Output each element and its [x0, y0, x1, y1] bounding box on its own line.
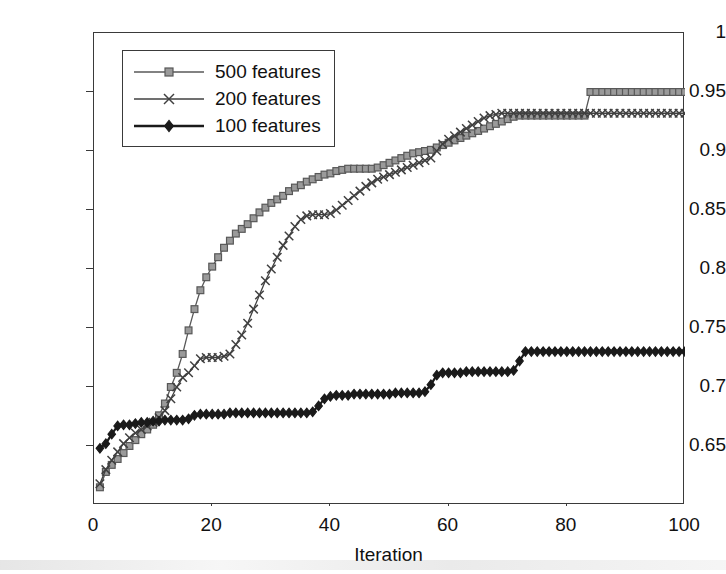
legend-label-2: 100 features [215, 116, 321, 135]
x-tick-label-2: 40 [294, 515, 364, 534]
legend-entry-0[interactable]: 500 features [132, 58, 321, 85]
series-500-features [97, 89, 685, 491]
legend-marker-x-icon [132, 89, 206, 109]
x-tick-label-1: 20 [176, 515, 246, 534]
x-tick-label-4: 80 [531, 515, 601, 534]
legend: 500 features200 features100 features [122, 50, 335, 147]
scan-artifact [0, 560, 726, 570]
legend-label-1: 200 features [215, 89, 321, 108]
legend-entry-2[interactable]: 100 features [132, 112, 321, 139]
legend-marker-diamond-icon [132, 116, 206, 136]
x-tick-label-0: 0 [58, 515, 128, 534]
series-100-features [96, 347, 685, 453]
legend-marker-square-icon [132, 62, 206, 82]
figure: 0.650.70.750.80.850.90.951 020406080100 … [0, 0, 726, 574]
x-tick-label-3: 60 [413, 515, 483, 534]
x-tick-label-5: 100 [649, 515, 719, 534]
legend-label-0: 500 features [215, 62, 321, 81]
legend-entry-1[interactable]: 200 features [132, 85, 321, 112]
